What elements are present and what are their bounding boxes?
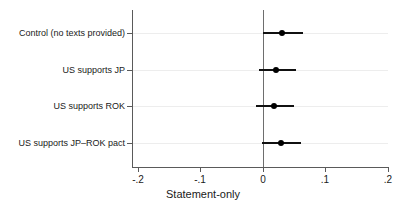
- x-tick-neg-point-2: [138, 167, 139, 172]
- estimate-point-marker: [271, 103, 277, 109]
- gridline-row-1: [133, 33, 388, 34]
- x-tick-zero: [263, 167, 264, 172]
- y-tick-4: [127, 143, 132, 144]
- y-label-row-3: US supports ROK: [0, 101, 125, 111]
- x-axis-line: [132, 167, 388, 168]
- x-tick-point-1: [325, 167, 326, 172]
- estimate-point-marker: [278, 140, 284, 146]
- x-tick-label-neg-point-2: -.2: [118, 174, 158, 186]
- gridline-row-4: [133, 143, 388, 144]
- estimate-point-marker: [279, 30, 285, 36]
- y-axis-line: [132, 10, 133, 168]
- y-tick-3: [127, 106, 132, 107]
- y-axis-label-us-supports-jp: US supports JP: [1, 65, 125, 75]
- x-axis-title: Statement-only: [0, 188, 406, 201]
- y-tick-1: [127, 33, 132, 34]
- y-axis-label-control: Control (no texts provided): [1, 28, 125, 38]
- y-label-row-2: US supports JP: [0, 65, 125, 75]
- y-axis-label-us-supports-jp-rok-pact: US supports JP–ROK pact: [1, 138, 125, 148]
- x-tick-neg-point-1: [200, 167, 201, 172]
- x-tick-label-point-1: .1: [305, 174, 345, 186]
- x-tick-label-zero: 0: [243, 174, 283, 186]
- x-tick-label-neg-point-1: -.1: [180, 174, 220, 186]
- y-label-row-1: Control (no texts provided): [0, 28, 125, 38]
- x-tick-label-point-2: .2: [368, 174, 406, 186]
- x-tick-point-2: [388, 167, 389, 172]
- y-label-row-4: US supports JP–ROK pact: [0, 138, 125, 148]
- y-tick-2: [127, 70, 132, 71]
- estimate-point-marker: [273, 67, 279, 73]
- coefficient-plot: Control (no texts provided) US supports …: [0, 0, 406, 206]
- y-axis-label-us-supports-rok: US supports ROK: [1, 101, 125, 111]
